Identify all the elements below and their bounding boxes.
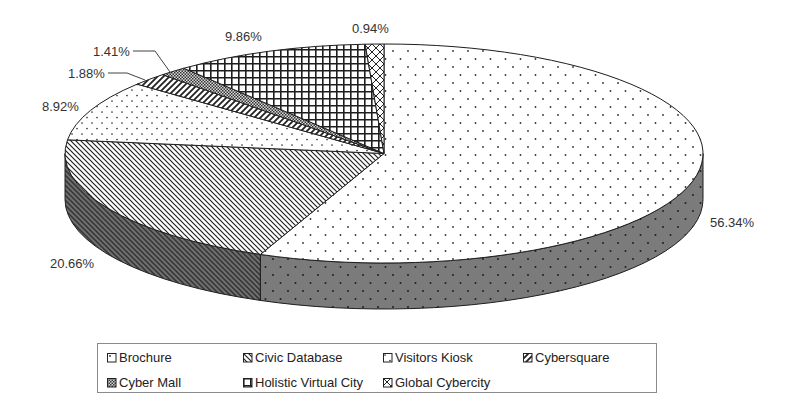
- legend-item-visitors-kiosk: Visitors Kiosk: [383, 350, 473, 366]
- data-label-brochure: 56.34%: [710, 215, 755, 230]
- legend-label: Global Cybercity: [395, 375, 490, 391]
- legend-item-cyber-mall: Cyber Mall: [107, 375, 181, 391]
- legend-label: Cybersquare: [535, 350, 609, 366]
- legend-swatch-cybersquare-icon: [523, 353, 533, 363]
- data-label-cybersquare: 1.88%: [68, 66, 105, 81]
- legend-label: Visitors Kiosk: [395, 350, 473, 366]
- legend: Brochure Civic Database Visitors Kiosk C…: [97, 343, 657, 393]
- legend-swatch-civic-database-icon: [243, 353, 253, 363]
- data-label-civic-database: 20.66%: [50, 256, 95, 271]
- legend-label: Brochure: [119, 350, 172, 366]
- chart-area: 56.34% 20.66% 8.92% 1.88% 1.41% 9.86% 0.…: [0, 0, 795, 419]
- legend-label: Civic Database: [255, 350, 342, 366]
- data-label-global-cybercity: 0.94%: [352, 21, 389, 36]
- leader-line-cybersquare: [108, 73, 145, 80]
- data-label-visitors-kiosk: 8.92%: [42, 99, 79, 114]
- data-label-holistic-virtual-city: 9.86%: [225, 29, 262, 44]
- legend-swatch-visitors-kiosk-icon: [383, 353, 393, 363]
- legend-item-brochure: Brochure: [107, 350, 172, 366]
- data-label-cyber-mall: 1.41%: [93, 44, 130, 59]
- leader-line-cyber-mall: [133, 51, 170, 72]
- legend-swatch-cyber-mall-icon: [107, 378, 117, 388]
- legend-swatch-global-cybercity-icon: [383, 378, 393, 388]
- legend-item-global-cybercity: Global Cybercity: [383, 375, 490, 391]
- legend-label: Cyber Mall: [119, 375, 181, 391]
- legend-swatch-holistic-virtual-city-icon: [243, 378, 253, 388]
- legend-swatch-brochure-icon: [107, 353, 117, 363]
- legend-item-holistic-virtual-city: Holistic Virtual City: [243, 375, 363, 391]
- legend-item-civic-database: Civic Database: [243, 350, 342, 366]
- pie-slices: [65, 44, 703, 263]
- legend-item-cybersquare: Cybersquare: [523, 350, 609, 366]
- legend-label: Holistic Virtual City: [255, 375, 363, 391]
